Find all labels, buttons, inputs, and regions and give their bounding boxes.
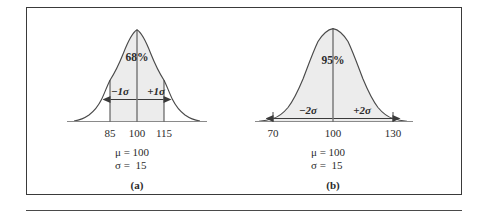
percent-label-a: 68%: [113, 52, 161, 64]
sigma-value-label-b: σ = 15: [311, 160, 342, 171]
figure-root: 68% −1σ +1σ 85 100 115 μ = 100 σ = 15 (a…: [0, 0, 490, 220]
mu-label-b: μ = 100: [311, 147, 345, 158]
tick-label-b-0: 70: [257, 128, 289, 139]
percent-label-b: 95%: [309, 55, 357, 67]
sigma-label-left-b: −2σ: [289, 105, 327, 116]
panel-b-plot: [245, 8, 463, 196]
sigma-label-right-a: +1σ: [137, 86, 175, 97]
sigma-label-right-b: +2σ: [343, 105, 381, 116]
bottom-rule-divider: [26, 210, 462, 211]
tick-label-a-2: 115: [148, 128, 180, 139]
tick-label-b-1: 100: [317, 128, 349, 139]
panel-b: 95% −2σ +2σ 70 100 130 μ = 100 σ = 15 (b…: [245, 8, 463, 196]
mu-label-a: μ = 100: [115, 147, 149, 158]
sigma-value-label-a: σ = 15: [115, 160, 146, 171]
panel-a: 68% −1σ +1σ 85 100 115 μ = 100 σ = 15 (a…: [27, 8, 245, 196]
tick-label-b-2: 130: [377, 128, 409, 139]
panel-caption-b: (b): [309, 180, 357, 191]
figure-frame: 68% −1σ +1σ 85 100 115 μ = 100 σ = 15 (a…: [26, 7, 462, 195]
sigma-label-left-a: −1σ: [101, 86, 139, 97]
panel-caption-a: (a): [113, 180, 161, 191]
